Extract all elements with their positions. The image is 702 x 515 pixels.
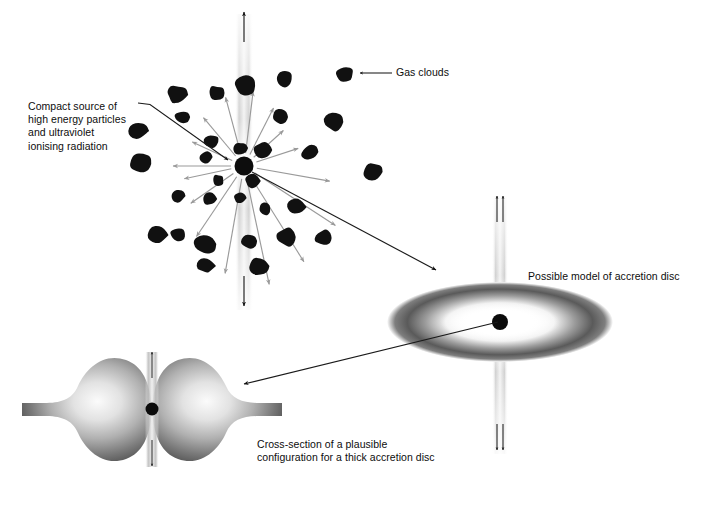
radial-outflow-arrows (173, 92, 335, 285)
gas-cloud (128, 123, 149, 139)
gas-cloud (194, 235, 217, 253)
label-compact-source: Compact source of high energy particles … (28, 100, 126, 153)
panel-gas-cloud-field (128, 12, 392, 310)
gas-cloud (204, 136, 219, 148)
label-gas-clouds: Gas clouds (396, 66, 449, 79)
radial-outflow-arrow (257, 168, 330, 181)
gas-cloud (172, 190, 186, 203)
gas-cloud (287, 199, 307, 214)
gas-cloud (273, 109, 288, 124)
gas-cloud-group (128, 67, 382, 275)
gas-cloud (213, 175, 223, 186)
gas-cloud (175, 112, 190, 123)
gas-cloud (197, 258, 216, 272)
compact-source-core (235, 157, 254, 176)
gas-cloud (130, 154, 151, 173)
panel-thin-accretion-disc (387, 196, 613, 454)
thick-disc-lobe-left (22, 358, 152, 461)
label-cross-section: Cross-section of a plausible configurati… (257, 438, 435, 464)
radial-outflow-arrow (251, 177, 304, 262)
cross-section-black-hole (146, 403, 159, 416)
gas-cloud (199, 151, 212, 163)
gas-cloud (324, 113, 343, 132)
gas-cloud (148, 226, 169, 243)
gas-cloud (315, 230, 332, 245)
gas-cloud (277, 71, 292, 87)
figure-canvas: Compact source of high energy particles … (0, 0, 702, 515)
label-accretion-model: Possible model of accretion disc (528, 270, 680, 283)
gas-cloud (276, 227, 295, 246)
gas-cloud (210, 86, 225, 100)
gas-cloud (170, 228, 185, 241)
disc-black-hole (492, 314, 508, 330)
gas-cloud (254, 142, 272, 158)
gas-cloud (301, 145, 318, 160)
source-to-disc-arrow (252, 172, 436, 270)
panel-thick-disc-cross-section (22, 352, 282, 467)
gas-cloud (259, 202, 270, 215)
gas-cloud (249, 258, 269, 275)
radial-outflow-arrow (184, 169, 231, 179)
gas-cloud (168, 86, 189, 103)
gas-cloud (364, 163, 383, 180)
gas-cloud (336, 67, 353, 82)
gas-cloud (203, 192, 217, 205)
